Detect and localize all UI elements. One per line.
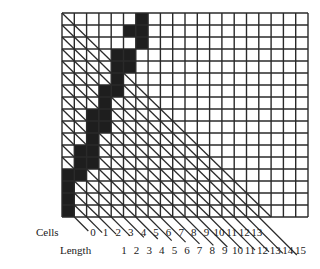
diagonal-line — [74, 109, 86, 121]
diagonal-line — [222, 181, 234, 193]
diagonal-line — [124, 205, 136, 217]
diagonal-line — [62, 97, 74, 109]
diagonal-line — [173, 145, 185, 157]
diagonal-line — [87, 205, 99, 217]
diagonal-line — [197, 193, 209, 205]
cells-tick-label: 3 — [128, 226, 134, 238]
diagonal-line — [74, 181, 86, 193]
diagonal-line — [197, 181, 209, 193]
diagonal-line — [74, 133, 86, 145]
filled-cell — [111, 49, 123, 61]
diagonal-line — [197, 205, 209, 217]
filled-cell — [62, 193, 74, 205]
filled-cell — [74, 169, 86, 181]
filled-cell — [99, 109, 111, 121]
diagonal-line — [185, 145, 197, 157]
diagonal-line — [210, 169, 222, 181]
cells-tick-label: 4 — [141, 226, 147, 238]
filled-cell — [62, 181, 74, 193]
diagonal-line — [173, 205, 185, 217]
filled-cell — [111, 85, 123, 97]
diagonal-line — [136, 181, 148, 193]
length-tick-label: 7 — [197, 244, 203, 256]
length-tick-label: 10 — [232, 244, 243, 256]
diagonal-line — [136, 193, 148, 205]
filled-cell — [87, 109, 99, 121]
diagonal-line — [62, 49, 74, 61]
diagonal-line — [148, 97, 160, 109]
filled-cell — [87, 157, 99, 169]
length-tick-label: 3 — [146, 244, 152, 256]
filled-cell — [87, 121, 99, 133]
length-axis-title: Length — [60, 244, 91, 256]
length-tick-label: 12 — [257, 244, 268, 256]
diagonal-line — [124, 121, 136, 133]
diagonal-line — [87, 97, 99, 109]
diagonal-line — [173, 121, 185, 133]
diagonal-line — [87, 85, 99, 97]
diagonal-line — [148, 193, 160, 205]
diagonal-line — [111, 169, 123, 181]
diagonal-line — [136, 157, 148, 169]
length-tick-label: 2 — [134, 244, 140, 256]
filled-cell — [87, 145, 99, 157]
diagonal-line — [160, 109, 172, 121]
diagonal-line — [222, 169, 234, 181]
diagonal-line — [124, 193, 136, 205]
diagonal-line — [148, 157, 160, 169]
cells-tick-label: 6 — [166, 226, 172, 238]
diagonal-line — [124, 181, 136, 193]
diagonal-line — [160, 193, 172, 205]
filled-cell — [111, 73, 123, 85]
diagonal-line — [247, 205, 259, 217]
diagonal-line — [160, 157, 172, 169]
diagonal-line — [173, 169, 185, 181]
diagonal-line — [160, 145, 172, 157]
diagonal-line — [136, 145, 148, 157]
diagonal-line — [74, 97, 86, 109]
diagonal-line — [185, 169, 197, 181]
diagonal-line — [136, 133, 148, 145]
diagonal-line — [173, 133, 185, 145]
diagonal-line — [136, 205, 148, 217]
filled-cell — [74, 145, 86, 157]
diagonal-line — [247, 193, 259, 205]
diagonal-line — [259, 205, 271, 217]
diagonal-line — [74, 73, 86, 85]
diagonal-line — [99, 181, 111, 193]
diagonal-line — [185, 193, 197, 205]
diagonal-line — [87, 49, 99, 61]
diagonal-line — [74, 121, 86, 133]
cells-tick-label: 5 — [153, 226, 159, 238]
cells-tick-label: 0 — [90, 226, 96, 238]
diagonal-line — [124, 97, 136, 109]
diagonal-line — [160, 205, 172, 217]
filled-cell — [111, 61, 123, 73]
filled-cell — [124, 25, 136, 37]
length-tick-label: 4 — [159, 244, 165, 256]
filled-cell — [136, 13, 148, 25]
diagonal-line — [124, 133, 136, 145]
diagonal-line — [62, 157, 74, 169]
cells-tick-label: 10 — [214, 226, 225, 238]
diagonal-line — [234, 181, 246, 193]
diagonal-line — [74, 85, 86, 97]
diagonal-line — [99, 133, 111, 145]
diagonal-line — [136, 169, 148, 181]
diagonal-line — [197, 157, 209, 169]
length-tick-label: 1 — [121, 244, 127, 256]
diagonal-line — [74, 193, 86, 205]
diagonal-line — [99, 73, 111, 85]
diagonal-line — [62, 25, 74, 37]
diagonal-line — [111, 121, 123, 133]
filled-cell — [124, 61, 136, 73]
diagonal-line — [148, 181, 160, 193]
diagonal-line — [62, 145, 74, 157]
diagonal-line — [160, 169, 172, 181]
diagonal-line — [99, 49, 111, 61]
diagonal-line — [185, 157, 197, 169]
diagonal-line — [124, 145, 136, 157]
diagonal-line — [234, 205, 246, 217]
diagonal-line — [87, 193, 99, 205]
diagonal-line — [210, 157, 222, 169]
